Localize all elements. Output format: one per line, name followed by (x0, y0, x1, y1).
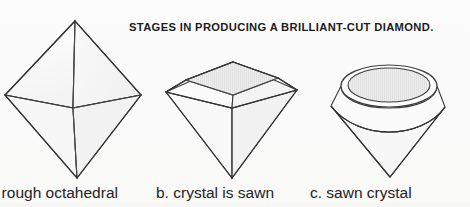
bottom-edge (0, 203, 470, 207)
diagram-sawn-crystal (331, 65, 445, 177)
caption-rough-octahedral: . rough octahedral (0, 184, 118, 202)
caption-crystal-is-sawn: b. crystal is sawn (156, 184, 274, 202)
diagram-area (0, 0, 470, 207)
figure-page: STAGES IN PRODUCING A BRILLIANT-CUT DIAM… (0, 0, 470, 207)
caption-sawn-crystal: c. sawn crystal (310, 184, 412, 202)
diagram-svg (0, 0, 470, 207)
diagram-crystal-is-sawn (166, 62, 297, 178)
octahedron-upper-right-facet (73, 21, 141, 108)
diagram-rough-octahedral (5, 21, 141, 178)
cone-table-ellipse (348, 68, 430, 102)
octahedron-upper-left-facet (5, 21, 75, 108)
